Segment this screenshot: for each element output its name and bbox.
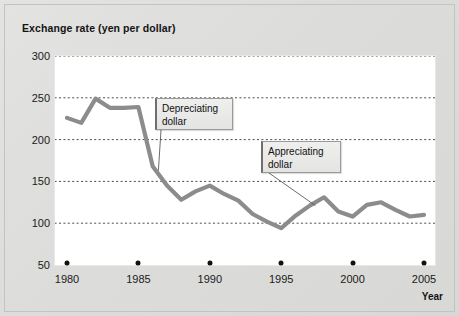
x-axis-tick-label: 1990 — [198, 273, 222, 285]
y-axis-tick-label: 50 — [14, 259, 50, 271]
x-axis-tick-dot — [136, 261, 141, 266]
x-axis-tick-dot — [207, 261, 212, 266]
y-axis-tick-label: 300 — [14, 50, 50, 62]
x-axis-tick-dot — [350, 261, 355, 266]
x-axis-tick-label: 2005 — [412, 273, 436, 285]
y-axis-tick-label: 150 — [14, 175, 50, 187]
chart-page: Exchange rate (yen per dollar) 300250200… — [0, 0, 459, 316]
annotation-depreciating-dollar: Depreciating dollar — [155, 98, 233, 130]
annotation-line-1: Depreciating — [162, 102, 227, 115]
annotation-line-2: dollar — [162, 115, 227, 128]
axis-layer: 30025020015010050 1980198519901995200020… — [0, 0, 459, 316]
y-axis-tick-label: 250 — [14, 92, 50, 104]
annotation-appreciating-dollar: Appreciating dollar — [261, 141, 341, 173]
x-axis-tick-dot — [279, 261, 284, 266]
x-axis-tick-label: 1980 — [55, 273, 79, 285]
x-axis-tick-dot — [65, 261, 70, 266]
y-axis-tick-label: 100 — [14, 217, 50, 229]
y-axis-tick-label: 200 — [14, 134, 50, 146]
x-axis-title: Year — [422, 291, 443, 302]
x-axis-tick-label: 1985 — [126, 273, 150, 285]
x-axis-tick-label: 2000 — [340, 273, 364, 285]
x-axis-tick-dot — [422, 261, 427, 266]
annotation-line-2: dollar — [268, 158, 335, 171]
x-axis-tick-label: 1995 — [269, 273, 293, 285]
annotation-line-1: Appreciating — [268, 145, 335, 158]
